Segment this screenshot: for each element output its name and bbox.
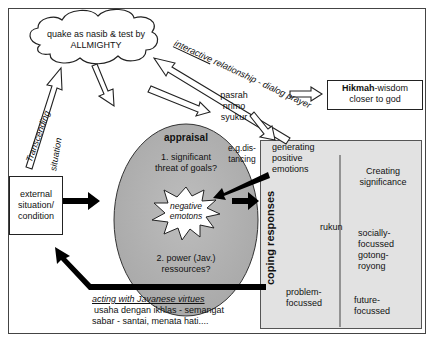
hikmah-bold: Hikmah [342, 83, 375, 93]
socially-focussed: socially- focussed gotong- royong [358, 228, 394, 272]
socially-line2: focussed [358, 239, 394, 250]
external-line2: situation/ [10, 200, 62, 211]
problem-focussed: problem- focussed [286, 287, 322, 309]
creating-line2: significance [350, 177, 416, 188]
problem-line1: problem- [286, 287, 322, 298]
virtues-line2: sabar - santai, menata hati.... [92, 316, 224, 327]
virtues-title: acting with Javanese virtues [92, 294, 224, 305]
external-line1: external [10, 189, 62, 200]
attitude-pasrah: pasrah [214, 90, 254, 101]
creating-line1: Creating [350, 166, 416, 177]
negative-emotions-burst: negative emotons [161, 201, 211, 221]
cloud-line2: ALLMIGHTY [36, 40, 156, 51]
burst-line2: emotons [161, 211, 211, 221]
generating-line2: positive [272, 153, 315, 164]
attitude-nrimo: nrimo [214, 101, 254, 112]
generating-positive-emotions: generating positive emotions [272, 142, 315, 175]
appraisal-q1: 1. significant threat of goals? [131, 152, 241, 174]
coping-responses-title: coping responses [264, 191, 276, 285]
future-line1: future- [354, 295, 390, 306]
socially-line3: gotong- [358, 250, 394, 261]
generating-line3: emotions [272, 164, 315, 175]
external-line3: condition [10, 211, 62, 222]
appraisal-title: appraisal [146, 132, 226, 143]
generating-line1: generating [272, 142, 315, 153]
hikmah-rest: -wisdom [375, 83, 409, 93]
rukun-label: rukun [320, 222, 343, 232]
future-focussed: future- focussed [354, 295, 390, 317]
creating-significance: Creating significance [350, 166, 416, 188]
javanese-virtues: acting with Javanese virtues usaha denga… [92, 294, 224, 327]
hikmah-line2: closer to god [328, 94, 422, 105]
attitudes-list: pasrah nrimo syukur [214, 90, 254, 123]
burst-line1: negative [161, 201, 211, 211]
cloud-label: quake as nasib & test by ALLMIGHTY [36, 29, 156, 51]
cloud-line1: quake as nasib & test by [36, 29, 156, 40]
appraisal-q2: 2. power (Jav.) ressources? [131, 253, 241, 275]
q2-line1: 2. power (Jav.) [131, 253, 241, 264]
virtues-line1: usaha dengan ikhlas - semangat [92, 305, 224, 316]
future-line2: focussed [354, 306, 390, 317]
q1-line1: 1. significant [131, 152, 241, 163]
problem-line2: focussed [286, 298, 322, 309]
socially-line4: royong [358, 261, 394, 272]
hikmah-box: Hikmah-wisdom closer to god [327, 80, 423, 110]
socially-line1: socially- [358, 228, 394, 239]
external-situation-box: external situation/ condition [9, 176, 63, 235]
q2-line2: ressources? [131, 264, 241, 275]
q1-line2: threat of goals? [131, 163, 241, 174]
attitude-syukur: syukur [214, 112, 254, 123]
